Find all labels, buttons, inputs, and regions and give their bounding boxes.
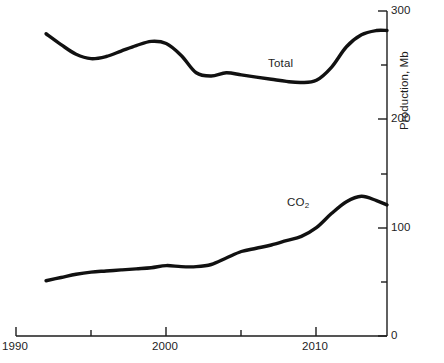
line-chart-plot	[0, 0, 444, 363]
x-major-ticks	[16, 327, 316, 336]
y-axis-title: Production, Mb	[398, 0, 410, 130]
series-annotation-co2-subscript: 2	[305, 201, 310, 210]
x-tick-label-2000: 2000	[152, 340, 178, 352]
caption-remnant	[0, 357, 444, 363]
series-annotation-co2: CO2	[287, 196, 309, 208]
figure-container: 300 200 100 0 1990 2000 2010 Production,…	[0, 0, 444, 363]
x-tick-label-2010: 2010	[302, 340, 328, 352]
series-annotation-co2-text: CO	[287, 196, 305, 208]
series-line-co2	[46, 196, 387, 281]
y-tick-label-0: 0	[391, 329, 398, 341]
x-tick-label-1990: 1990	[2, 340, 28, 352]
series-layer	[46, 30, 387, 281]
series-line-total	[46, 30, 387, 82]
series-annotation-total: Total	[268, 57, 293, 69]
y-minor-ticks	[381, 65, 387, 282]
y-tick-label-100: 100	[391, 221, 411, 233]
